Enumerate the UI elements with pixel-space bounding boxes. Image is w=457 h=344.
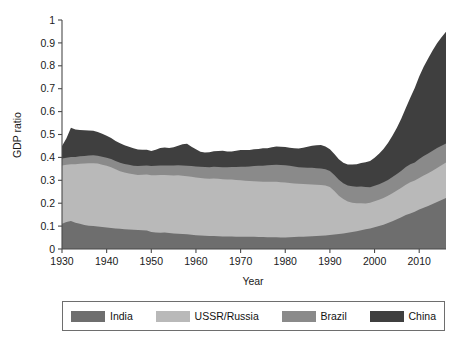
legend-label: China [409,311,436,322]
chart-figure: GDP ratio Year 00.10.20.30.40.50.60.70.8… [0,0,457,344]
y-axis-ticks: 00.10.20.30.40.50.60.70.80.91 [40,14,62,255]
legend-label: USSR/Russia [195,311,259,322]
x-tick-label: 1990 [318,255,342,267]
legend-item-ussr-russia[interactable]: USSR/Russia [156,311,259,322]
legend-swatch [282,311,316,322]
y-tick-label: 0.4 [40,151,55,163]
x-axis-title: Year [242,275,264,287]
legend-swatch [156,311,190,322]
x-tick-label: 1940 [95,255,119,267]
x-tick-label: 1930 [50,255,74,267]
legend-swatch [370,311,404,322]
y-axis-title: GDP ratio [11,112,23,158]
y-tick-label: 0.7 [40,82,55,94]
x-tick-label: 1980 [274,255,298,267]
stacked-area-chart: GDP ratio Year 00.10.20.30.40.50.60.70.8… [0,0,457,290]
y-tick-label: 0.8 [40,59,55,71]
y-tick-label: 0.6 [40,105,55,117]
legend-item-china[interactable]: China [370,311,436,322]
y-tick-label: 0.9 [40,37,55,49]
y-tick-label: 0 [49,243,55,255]
y-tick-label: 1 [49,14,55,26]
x-axis-ticks: 193019401950196019701980199020002010 [50,249,431,267]
legend-swatch [71,311,105,322]
plot-area: GDP ratio Year 00.10.20.30.40.50.60.70.8… [0,0,457,290]
x-tick-label: 1960 [184,255,208,267]
legend-item-brazil[interactable]: Brazil [282,311,347,322]
legend-item-india[interactable]: India [71,311,133,322]
x-tick-label: 2000 [363,255,387,267]
y-tick-label: 0.3 [40,174,55,186]
y-tick-label: 0.5 [40,128,55,140]
legend-label: Brazil [321,311,347,322]
legend-label: India [110,311,133,322]
y-tick-label: 0.1 [40,220,55,232]
x-tick-label: 2010 [408,255,432,267]
x-tick-label: 1970 [229,255,253,267]
chart-legend: IndiaUSSR/RussiaBrazilChina [62,301,445,331]
area-series-group [62,32,446,249]
y-tick-label: 0.2 [40,197,55,209]
x-tick-label: 1950 [140,255,164,267]
